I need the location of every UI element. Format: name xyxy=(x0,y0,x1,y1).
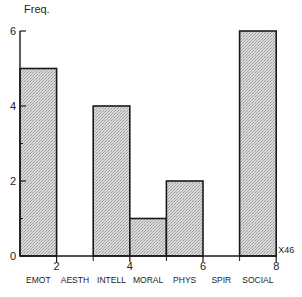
frequency-histogram: 0246Freq.2468X46EMOTAESTHINTELLMORALPHYS… xyxy=(0,0,302,297)
bar-phys xyxy=(166,181,203,256)
y-axis-label: Freq. xyxy=(24,3,50,15)
bar-intell xyxy=(93,106,130,256)
category-label-social: SOCIAL xyxy=(242,275,273,285)
x-multiplier-label: X46 xyxy=(278,245,294,255)
bar-moral xyxy=(130,219,167,257)
x-tick-label: 4 xyxy=(127,260,133,272)
category-label-intell: INTELL xyxy=(97,275,126,285)
category-label-emot: EMOT xyxy=(26,275,51,285)
x-tick-label: 8 xyxy=(273,260,279,272)
x-tick-label: 6 xyxy=(200,260,206,272)
bar-emot xyxy=(20,69,57,257)
category-label-aesth: AESTH xyxy=(61,275,89,285)
y-tick-label: 6 xyxy=(10,25,16,37)
category-label-spir: SPIR xyxy=(211,275,231,285)
category-label-moral: MORAL xyxy=(133,275,164,285)
bars-group xyxy=(20,31,276,256)
y-tick-label: 4 xyxy=(10,100,16,112)
bar-social xyxy=(240,31,277,256)
y-tick-label: 2 xyxy=(10,175,16,187)
category-label-phys: PHYS xyxy=(173,275,196,285)
y-tick-label: 0 xyxy=(10,250,16,262)
x-tick-label: 2 xyxy=(54,260,60,272)
